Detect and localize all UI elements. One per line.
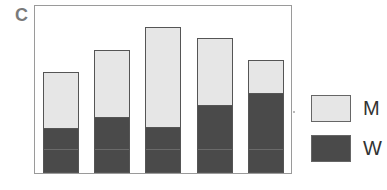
bar-5 — [248, 60, 284, 173]
legend-item-w: W — [311, 135, 382, 162]
bar-segment-m — [145, 27, 181, 127]
bar-4 — [197, 38, 233, 173]
bar-3 — [145, 27, 181, 173]
legend-item-m: M — [311, 95, 380, 122]
bar-1 — [43, 72, 79, 173]
legend-label-m: M — [363, 97, 380, 120]
bar-segment-w — [94, 117, 130, 173]
bar-segment-w — [248, 93, 284, 173]
legend-swatch-m — [311, 95, 351, 122]
stray-dot — [293, 111, 295, 113]
bar-segment-m — [43, 72, 79, 128]
bar-segment-w — [197, 105, 233, 173]
legend-label-w: W — [363, 137, 382, 160]
bar-segment-m — [197, 38, 233, 105]
bar-segment-w — [43, 128, 79, 173]
legend-swatch-w — [311, 135, 351, 162]
bar-2 — [94, 50, 130, 173]
panel-label: C — [15, 6, 28, 24]
plot-frame — [34, 5, 292, 174]
bar-segment-m — [94, 50, 130, 117]
bar-segment-w — [145, 127, 181, 173]
bar-segment-m — [248, 60, 284, 93]
